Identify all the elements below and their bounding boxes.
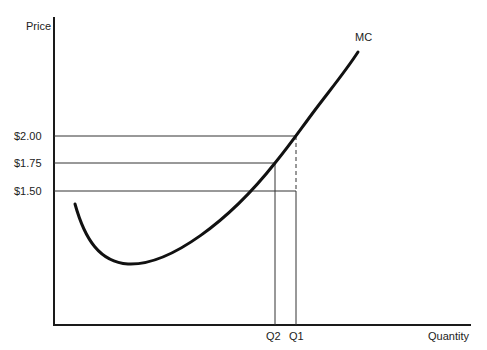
- tick-175: $1.75: [14, 157, 42, 169]
- tick-q1: Q1: [289, 330, 304, 342]
- x-axis-label: Quantity: [428, 330, 469, 342]
- tick-200: $2.00: [14, 130, 42, 142]
- mc-chart: Price Quantity MC $2.00 $1.75 $1.50 Q2 Q…: [0, 0, 487, 350]
- mc-label: MC: [355, 31, 372, 43]
- mc-curve: [75, 52, 358, 264]
- tick-150: $1.50: [14, 185, 42, 197]
- y-axis-label: Price: [26, 20, 51, 32]
- tick-q2: Q2: [266, 330, 281, 342]
